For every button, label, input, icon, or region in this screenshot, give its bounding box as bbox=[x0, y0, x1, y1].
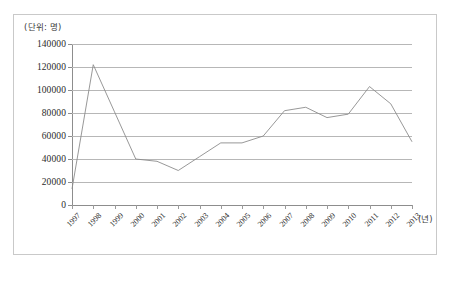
x-tick-mark-1999 bbox=[115, 205, 116, 209]
x-tick-mark-2005 bbox=[242, 205, 243, 209]
x-tick-mark-2008 bbox=[306, 205, 307, 209]
y-tick-label-120000: 120000 bbox=[37, 62, 66, 72]
x-tick-mark-2003 bbox=[200, 205, 201, 209]
figure-root: (단위: 명) 02000040000600008000010000012000… bbox=[0, 0, 451, 281]
y-tick-label-0: 0 bbox=[61, 200, 66, 210]
x-tick-mark-2009 bbox=[327, 205, 328, 209]
y-axis-unit-label: (단위: 명) bbox=[24, 20, 62, 32]
x-tick-mark-2000 bbox=[136, 205, 137, 209]
x-tick-mark-2010 bbox=[348, 205, 349, 209]
plot-area: 020000400006000080000100000120000140000 … bbox=[72, 44, 412, 205]
y-tick-label-60000: 60000 bbox=[42, 131, 66, 141]
y-tick-label-100000: 100000 bbox=[37, 85, 66, 95]
series-line-0 bbox=[72, 65, 412, 189]
y-tick-label-80000: 80000 bbox=[42, 108, 66, 118]
y-tick-label-140000: 140000 bbox=[37, 39, 66, 49]
x-tick-mark-2001 bbox=[157, 205, 158, 209]
x-tick-mark-2004 bbox=[221, 205, 222, 209]
x-tick-mark-1998 bbox=[93, 205, 94, 209]
x-tick-mark-2013 bbox=[412, 205, 413, 209]
x-tick-mark-2012 bbox=[391, 205, 392, 209]
x-tick-mark-2002 bbox=[178, 205, 179, 209]
y-tick-label-40000: 40000 bbox=[42, 154, 66, 164]
x-tick-mark-2007 bbox=[285, 205, 286, 209]
x-tick-mark-1997 bbox=[72, 205, 73, 209]
x-tick-mark-2006 bbox=[263, 205, 264, 209]
x-axis-title: (년) bbox=[418, 212, 433, 224]
x-tick-mark-2011 bbox=[370, 205, 371, 209]
y-tick-label-20000: 20000 bbox=[42, 177, 66, 187]
data-line-series bbox=[72, 44, 412, 205]
